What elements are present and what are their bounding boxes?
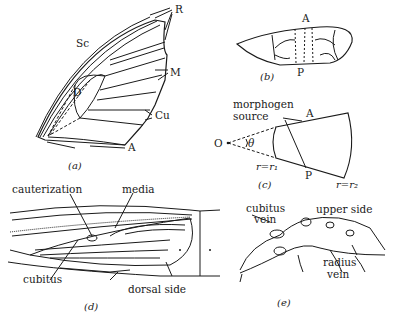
caption-d: (d) [84, 302, 98, 312]
label-radius-vein: vein [327, 269, 349, 280]
label-b-p: P [297, 67, 304, 78]
label-theta: θ [248, 138, 254, 149]
label-o: O [214, 138, 223, 149]
label-r2: r=r₂ [336, 180, 358, 190]
caption-a: (a) [68, 161, 82, 171]
panel-d-wing [8, 193, 220, 280]
label-cubitus: cubitus [23, 274, 62, 285]
panel-c-sector [228, 113, 352, 178]
label-c-p: P [305, 170, 312, 181]
label-e-cubitus-vein: vein [254, 214, 276, 225]
label-cu: Cu [155, 110, 170, 121]
label-source: source [233, 111, 269, 122]
label-r1: r=r₁ [256, 162, 278, 172]
panel-e-section [240, 215, 385, 282]
label-media: media [122, 184, 155, 195]
label-d: D [73, 87, 81, 98]
label-morphogen: morphogen [233, 99, 294, 110]
label-a: A [128, 142, 136, 153]
label-cauterization: cauterization [12, 184, 82, 195]
caption-c: (c) [258, 180, 271, 190]
label-m: M [170, 67, 181, 78]
label-upper-side: upper side [316, 204, 372, 215]
caption-e: (e) [277, 298, 291, 308]
label-dorsal-side: dorsal side [128, 284, 186, 295]
label-sc: Sc [76, 38, 89, 49]
label-r: R [175, 4, 183, 15]
label-radius: radius [323, 257, 357, 268]
label-c-a: A [306, 108, 314, 119]
panel-b-wing [237, 27, 352, 65]
caption-b: (b) [260, 72, 274, 82]
panel-a-wing [36, 8, 172, 148]
label-e-cubitus: cubitus [246, 203, 285, 214]
label-b-a: A [302, 13, 310, 24]
